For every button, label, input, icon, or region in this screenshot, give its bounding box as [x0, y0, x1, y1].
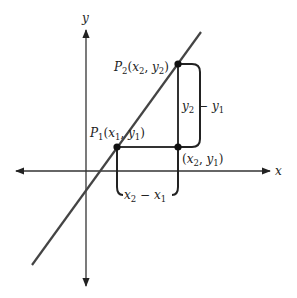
- point-corner: [174, 143, 181, 150]
- slope-diagram: y x P2(x2, y2) P1(x1, y1) (x2, y1) y2 − …: [0, 0, 297, 298]
- point-p2: [174, 60, 181, 67]
- rise-label: y2 − y1: [181, 99, 224, 115]
- p2-label: P2(x2, y2): [113, 60, 169, 76]
- x-axis-label: x: [275, 164, 282, 178]
- corner-label: (x2, y1): [182, 152, 223, 168]
- p1-label: P1(x1, y1): [89, 126, 145, 142]
- y-axis-label: y: [81, 11, 89, 25]
- point-p1: [113, 143, 120, 150]
- run-label: x2 − x1: [124, 188, 166, 204]
